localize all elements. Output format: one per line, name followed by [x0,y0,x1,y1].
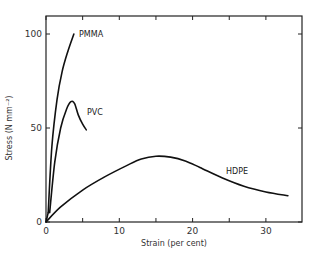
curves [46,34,288,222]
label-hdpe: HDPE [226,167,248,176]
x-tick-label: 20 [187,226,199,236]
curve-hdpe [46,156,288,222]
label-pvc: PVC [87,108,103,117]
stress-strain-chart: 0102030 050100 PMMAPVCHDPE Strain (per c… [0,0,322,263]
y-axis-label: Stress (N mm⁻²) [5,96,14,161]
x-tick-label: 30 [260,226,272,236]
y-tick-label: 50 [31,123,43,133]
x-axis-label: Strain (per cent) [141,239,207,248]
y-tick-label: 0 [36,217,42,227]
x-tick-label: 10 [114,226,126,236]
x-tick-label: 0 [43,226,49,236]
y-tick-label: 100 [25,29,42,39]
series-labels: PMMAPVCHDPE [79,30,248,176]
x-axis-ticks: 0102030 [43,16,272,236]
label-pmma: PMMA [79,30,104,39]
